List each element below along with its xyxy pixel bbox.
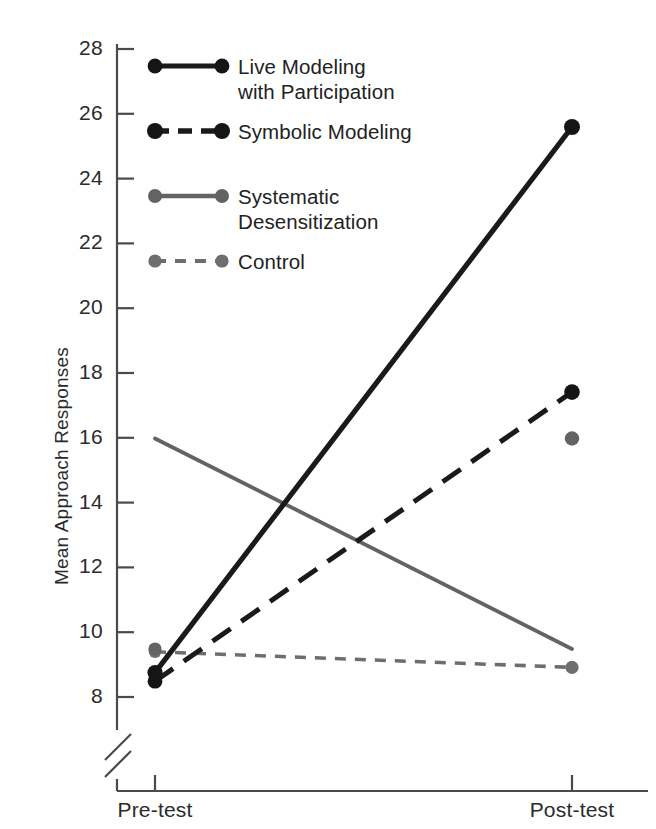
ytick-label-8: 8 — [57, 684, 103, 708]
chart-figure: 28 26 24 22 20 18 16 14 12 10 8 Pre-test… — [0, 0, 656, 829]
ytick-label-22: 22 — [57, 230, 103, 254]
legend-swatch-symbolic-modeling — [147, 123, 230, 139]
ytick-label-10: 10 — [57, 619, 103, 643]
series-control — [149, 646, 579, 674]
legend-label-live-modeling: Live Modeling with Participation — [238, 54, 395, 104]
legend-label-symbolic-modeling: Symbolic Modeling — [238, 119, 412, 144]
legend-swatch-live-modeling — [148, 59, 230, 74]
y-axis-title: Mean Approach Responses — [51, 316, 73, 616]
legend-swatch-control — [148, 254, 228, 267]
ytick-label-24: 24 — [57, 166, 103, 190]
y-tick-marks — [117, 49, 134, 697]
y-axis-break-icon — [105, 734, 131, 777]
ytick-label-28: 28 — [57, 36, 103, 60]
xtick-label-post-test: Post-test — [502, 798, 642, 822]
x-tick-marks — [155, 775, 572, 791]
legend-label-control: Control — [238, 249, 305, 274]
xtick-label-pre-test: Pre-test — [85, 798, 225, 822]
legend-label-systematic-desensitization: Systematic Desensitization — [238, 184, 379, 234]
series-symbolic-modeling — [148, 384, 580, 688]
ytick-label-26: 26 — [57, 101, 103, 125]
legend-swatch-systematic-desensitization — [148, 189, 229, 203]
series-systematic-desensitization — [148, 431, 579, 655]
